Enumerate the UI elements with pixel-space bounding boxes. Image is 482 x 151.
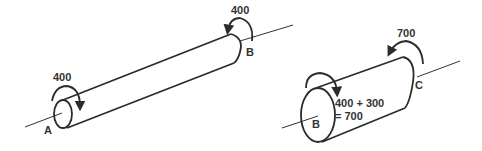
end-c-label: C [415, 79, 423, 91]
end-a-torque-label: 400 [53, 71, 71, 83]
left-cylinder-bottom-edge [67, 63, 234, 128]
end-b-torque-label: 400 [231, 4, 249, 16]
end-c-cap [403, 57, 414, 108]
torque-arrow-b [228, 18, 252, 41]
right-cylinder-top-edge [316, 57, 403, 88]
end-b-right-torque-label-line1: 400 + 300 [335, 97, 384, 109]
right-shaft [282, 41, 460, 142]
end-a-face [54, 100, 72, 128]
end-b-face-right [301, 88, 335, 142]
torque-arrow-a [52, 86, 80, 106]
end-b-label: B [246, 46, 254, 58]
end-b-right-torque-label-line2: = 700 [335, 110, 363, 122]
end-b-cap [231, 34, 241, 63]
end-c-torque-label: 700 [397, 27, 415, 39]
torsion-shaft-diagram: 400 A 400 B 400 + 300 = 700 B 700 C [0, 0, 482, 151]
end-a-label: A [44, 124, 52, 136]
left-axis-line-b [240, 25, 293, 41]
end-b-right-label: B [312, 118, 320, 130]
left-cylinder-top-edge [63, 34, 231, 100]
